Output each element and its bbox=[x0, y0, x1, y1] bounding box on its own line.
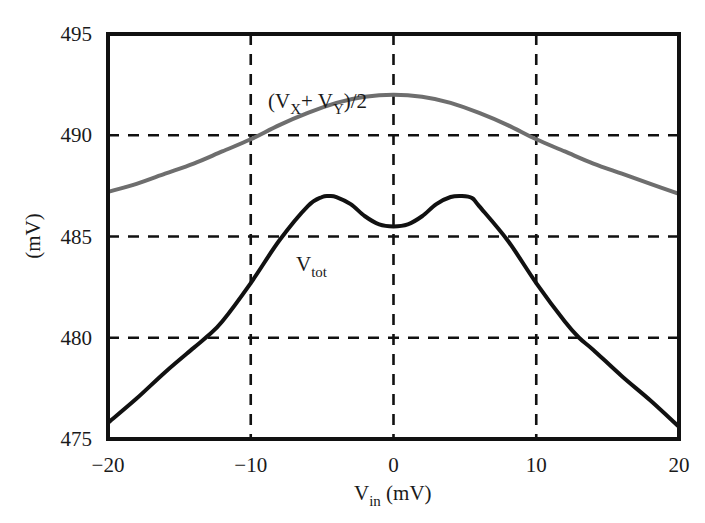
chart: −20−1001020475480485490495 (VX+ VY)/2 Vt… bbox=[0, 0, 705, 523]
annotation-average: (VX+ VY)/2 bbox=[268, 89, 367, 117]
x-tick-label: 20 bbox=[669, 453, 690, 477]
y-tick-label: 485 bbox=[61, 225, 93, 249]
x-tick-label: 10 bbox=[526, 453, 547, 477]
x-tick-label: −20 bbox=[92, 453, 125, 477]
y-axis-label: (mV) bbox=[21, 213, 45, 259]
x-tick-label: 0 bbox=[388, 453, 399, 477]
tick-labels: −20−1001020475480485490495 bbox=[61, 22, 690, 477]
y-tick-label: 475 bbox=[61, 427, 93, 451]
x-tick-label: −10 bbox=[234, 453, 267, 477]
x-axis-label: Vin (mV) bbox=[354, 481, 432, 509]
series-vtot-line bbox=[108, 196, 679, 427]
y-tick-label: 490 bbox=[61, 123, 93, 147]
y-tick-label: 480 bbox=[61, 326, 93, 350]
annotation-vtot: Vtot bbox=[296, 252, 328, 280]
y-tick-label: 495 bbox=[61, 22, 93, 46]
